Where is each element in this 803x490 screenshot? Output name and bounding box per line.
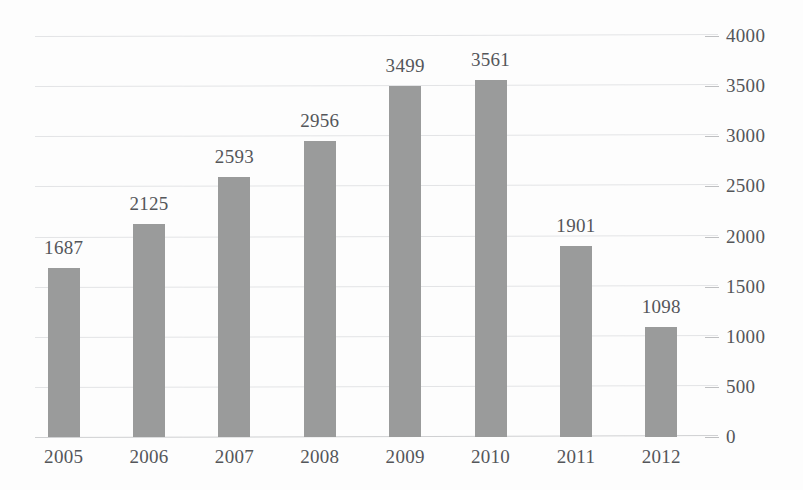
gridline	[35, 134, 718, 137]
y-axis-tick-label: 2500	[726, 175, 765, 197]
x-axis-tick-label: 2011	[531, 446, 621, 468]
bar-value-label: 2956	[275, 110, 365, 132]
bar-chart: 40003500300025002000150010005000 2005200…	[0, 0, 803, 490]
bar	[48, 268, 80, 437]
x-axis-tick-label: 2010	[446, 446, 536, 468]
bar	[218, 177, 250, 437]
tick-mark	[705, 237, 719, 238]
bar-value-label: 1687	[19, 237, 109, 259]
bar	[389, 86, 421, 437]
gridline	[35, 34, 718, 37]
bar-value-label: 2593	[189, 146, 279, 168]
tick-mark	[705, 86, 719, 87]
x-axis-tick-label: 2012	[616, 446, 706, 468]
x-axis-tick-label: 2005	[19, 446, 109, 468]
tick-mark	[705, 186, 719, 187]
bar	[304, 141, 336, 437]
y-axis-tick-label: 1500	[726, 276, 765, 298]
y-axis-tick-label: 1000	[726, 326, 765, 348]
bar-value-label: 1901	[531, 215, 621, 237]
bar	[645, 327, 677, 437]
bar-value-label: 2125	[104, 193, 194, 215]
bar	[560, 246, 592, 437]
y-axis-tick-label: 4000	[726, 25, 765, 47]
y-axis-tick-label: 3500	[726, 75, 765, 97]
x-axis-tick-label: 2009	[360, 446, 450, 468]
bar-value-label: 1098	[616, 296, 706, 318]
y-axis-tick-label: 2000	[726, 226, 765, 248]
y-axis-tick-label: 500	[726, 376, 755, 398]
tick-mark	[705, 337, 719, 338]
tick-mark	[705, 387, 719, 388]
gridline	[35, 184, 718, 187]
tick-mark	[705, 437, 719, 438]
y-axis-tick-label: 0	[726, 426, 736, 448]
tick-mark	[705, 36, 719, 37]
tick-mark	[705, 136, 719, 137]
x-axis-tick-label: 2006	[104, 446, 194, 468]
bar	[475, 80, 507, 437]
tick-mark	[705, 287, 719, 288]
x-axis-tick-label: 2007	[189, 446, 279, 468]
bar	[133, 224, 165, 437]
gridline	[35, 84, 718, 87]
bar-value-label: 3499	[360, 55, 450, 77]
y-axis-tick-label: 3000	[726, 125, 765, 147]
bar-value-label: 3561	[446, 49, 536, 71]
x-axis-tick-label: 2008	[275, 446, 365, 468]
